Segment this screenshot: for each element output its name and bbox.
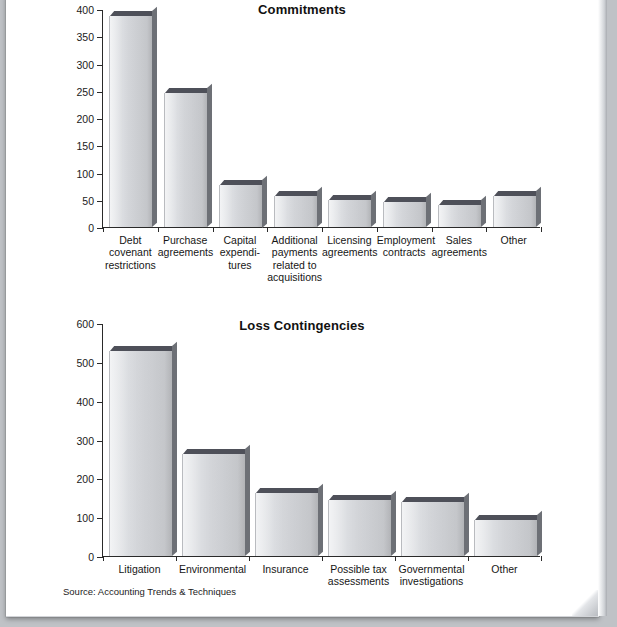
x-axis-category-label: Employmentcontracts — [377, 234, 432, 259]
chart-loss-contingencies-plot: 0100200300400500600LitigationEnvironment… — [102, 324, 540, 557]
y-axis-tick-mark — [97, 37, 103, 38]
y-axis-tick-label: 350 — [76, 31, 94, 43]
x-axis-category-label-line: agreements — [158, 246, 213, 258]
y-axis-tick-label: 600 — [76, 318, 94, 330]
bar-top-face — [220, 180, 266, 185]
bar-shading — [494, 196, 536, 227]
bar — [109, 16, 152, 227]
bar-side-face — [317, 187, 322, 227]
x-axis-tick-mark — [541, 556, 542, 561]
bar-top-face — [256, 488, 322, 493]
x-axis-category-label-line: assessments — [322, 575, 395, 587]
y-axis-tick-label: 300 — [76, 435, 94, 447]
bar-shading — [220, 185, 262, 228]
bar — [219, 185, 262, 228]
bar — [274, 196, 317, 227]
bar-shading — [256, 493, 318, 556]
x-axis-tick-mark — [395, 556, 396, 561]
x-axis-category-label: Other — [486, 234, 541, 246]
x-axis-tick-mark — [103, 556, 104, 561]
x-axis-category-label-line: Litigation — [103, 563, 176, 575]
bar-top-face — [494, 191, 540, 196]
x-axis-tick-mark — [103, 227, 104, 232]
x-axis-category-label-line: Insurance — [249, 563, 322, 575]
x-axis-category-label: Governmentalinvestigations — [395, 563, 468, 588]
bar — [255, 493, 318, 556]
bar — [164, 93, 207, 227]
x-axis-tick-mark — [486, 227, 487, 232]
y-axis-tick-label: 250 — [76, 86, 94, 98]
y-axis-tick-label: 400 — [76, 4, 94, 16]
y-axis-tick-label: 400 — [76, 396, 94, 408]
x-axis-category-label-line: Environmental — [176, 563, 249, 575]
x-axis-tick-mark — [213, 227, 214, 232]
x-axis-category-label: Additionalpaymentsrelated toacquisitions — [267, 234, 322, 284]
x-axis-category-label-line: Licensing — [322, 234, 377, 246]
x-axis-category-label: Possible taxassessments — [322, 563, 395, 588]
x-axis-category-label-line: agreements — [432, 246, 487, 258]
x-axis-tick-mark — [158, 227, 159, 232]
bar-shading — [275, 196, 317, 227]
bar-shading — [110, 16, 152, 227]
x-axis-category-label: Other — [468, 563, 541, 575]
bar-top-face — [183, 449, 249, 454]
x-axis-category-label: Insurance — [249, 563, 322, 575]
x-axis-category-label: Environmental — [176, 563, 249, 575]
y-axis-tick-mark — [97, 324, 103, 325]
x-axis-category-label-line: agreements — [322, 246, 377, 258]
bar-side-face — [262, 175, 267, 227]
bar-side-face — [481, 196, 486, 227]
y-axis-tick-label: 0 — [88, 551, 94, 563]
bar — [474, 520, 537, 556]
y-axis-tick-label: 500 — [76, 357, 94, 369]
bar-top-face — [329, 195, 375, 200]
bar — [493, 196, 536, 227]
source-note: Source: Accounting Trends & Techniques — [63, 586, 236, 597]
x-axis-category-label-line: Employment — [377, 234, 432, 246]
x-axis-tick-mark — [249, 556, 250, 561]
page-root: Commitments 050100150200250300350400Debt… — [0, 0, 617, 627]
x-axis-category-label-line: contracts — [377, 246, 432, 258]
y-axis-tick-mark — [97, 402, 103, 403]
x-axis-category-label-line: Capital — [213, 234, 268, 246]
y-axis-tick-mark — [97, 65, 103, 66]
x-axis-category-label-line: Other — [486, 234, 541, 246]
x-axis-tick-mark — [377, 227, 378, 232]
x-axis-tick-mark — [322, 556, 323, 561]
bar-shading — [384, 202, 426, 227]
x-axis-category-label-line: Other — [468, 563, 541, 575]
bar-shading — [183, 454, 245, 556]
chart-commitments-plot: 050100150200250300350400Debtcovenantrest… — [102, 10, 540, 228]
bar-top-face — [439, 200, 485, 205]
bar-side-face — [318, 484, 323, 556]
y-axis-tick-label: 0 — [88, 222, 94, 234]
x-axis-category-label: Salesagreements — [432, 234, 487, 259]
y-axis-tick-mark — [97, 201, 103, 202]
x-axis-tick-mark — [468, 556, 469, 561]
y-axis-tick-mark — [97, 146, 103, 147]
x-axis-tick-mark — [541, 227, 542, 232]
bar-side-face — [371, 191, 376, 227]
x-axis-category-label-line: tures — [213, 259, 268, 271]
x-axis-category-label: Purchaseagreements — [158, 234, 213, 259]
x-axis-category-label-line: Additional — [267, 234, 322, 246]
y-axis-tick-label: 300 — [76, 59, 94, 71]
x-axis-category-label-line: payments — [267, 246, 322, 258]
bar-shading — [110, 351, 172, 556]
bar-shading — [329, 200, 371, 227]
y-axis-tick-label: 100 — [76, 512, 94, 524]
x-axis-category-label-line: Debt — [103, 234, 158, 246]
x-axis-tick-mark — [322, 227, 323, 232]
x-axis-tick-mark — [176, 556, 177, 561]
y-axis-tick-label: 200 — [76, 473, 94, 485]
y-axis-tick-mark — [97, 518, 103, 519]
bar-side-face — [152, 6, 157, 227]
bar-top-face — [402, 497, 468, 502]
x-axis-category-label: Licensingagreements — [322, 234, 377, 259]
x-axis-category-label-line: covenant — [103, 246, 158, 258]
bar — [182, 454, 245, 556]
y-axis-tick-mark — [97, 92, 103, 93]
bar-shading — [329, 500, 391, 556]
bar-side-face — [391, 491, 396, 556]
bar-top-face — [329, 495, 395, 500]
